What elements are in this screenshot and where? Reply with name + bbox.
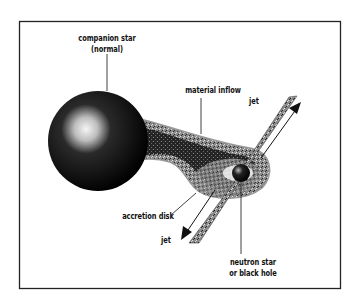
label-compact-object: neutron star or black hole (226, 256, 281, 278)
jet-cone-top (243, 96, 297, 169)
neutron-star-or-black-hole (232, 164, 250, 182)
label-jet-top: jet (246, 95, 262, 106)
label-compact-object-line1: neutron star (226, 256, 281, 267)
companion-star (48, 91, 148, 191)
label-compact-object-line2: or black hole (226, 267, 281, 278)
diagram-svg (0, 0, 355, 304)
diagram-canvas: companion star (normal) material inflow … (0, 0, 355, 304)
label-companion-star-line2: (normal) (68, 43, 146, 54)
label-companion-star-line1: companion star (68, 32, 146, 43)
label-accretion-disk: accretion disk (117, 210, 179, 221)
label-material-inflow: material inflow (174, 84, 252, 95)
label-jet-bottom: jet (158, 234, 174, 245)
label-companion-star: companion star (normal) (68, 32, 146, 54)
